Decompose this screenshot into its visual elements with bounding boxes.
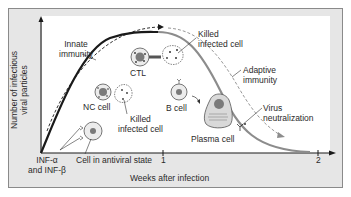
b-cell-label: B cell [166, 104, 187, 114]
adaptive-immunity-label: Adaptive immunity [243, 66, 277, 85]
x-axis-label: Weeks after infection [130, 174, 209, 184]
antiviral-cell-label: Cell in antiviral state [76, 156, 152, 166]
plasma-cell-label: Plasma cell [191, 135, 234, 145]
interferon-label: INF-α and INF-β [28, 156, 66, 175]
killed-infected-cell-bottom-label: Killed infected cell [118, 115, 163, 134]
killed-infected-cell-top-label: Killed infected cell [198, 30, 243, 49]
x-tick-2: 2 [316, 156, 321, 166]
virus-neutralization-label: Virus neutralization [263, 104, 314, 123]
ctl-label: CTL [130, 69, 146, 79]
y-axis-label: Number of infectious viral particles [10, 30, 29, 150]
innate-immunity-label: Innate immunity [59, 40, 93, 59]
x-tick-1: 1 [161, 156, 166, 166]
x-axis-arrow-icon [329, 151, 336, 156]
plot-area [40, 16, 330, 153]
nc-cell-label: NC cell [83, 103, 110, 113]
nc-cell-icon [95, 84, 111, 100]
